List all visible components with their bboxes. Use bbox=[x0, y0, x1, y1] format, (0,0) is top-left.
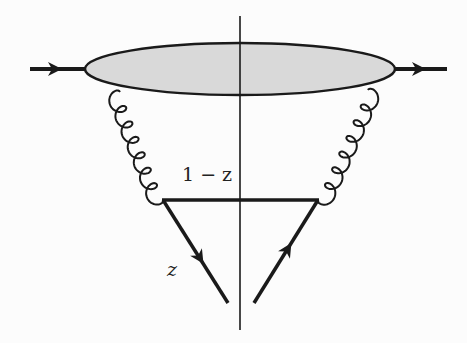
outgoing-quark-line bbox=[393, 62, 447, 76]
label-z: z bbox=[167, 258, 177, 280]
diagram-canvas bbox=[0, 0, 467, 343]
arrow-up-icon bbox=[278, 239, 297, 258]
arrow-down-icon bbox=[190, 248, 209, 267]
left-gluon bbox=[109, 91, 163, 205]
right-gluon bbox=[318, 89, 378, 205]
lower-left-quark bbox=[163, 200, 228, 303]
label-one-minus-z: 1 − z bbox=[182, 163, 232, 185]
feynman-diagram: 1 − z z bbox=[0, 0, 467, 343]
lower-right-quark bbox=[254, 200, 318, 303]
incoming-quark-line bbox=[30, 62, 86, 76]
